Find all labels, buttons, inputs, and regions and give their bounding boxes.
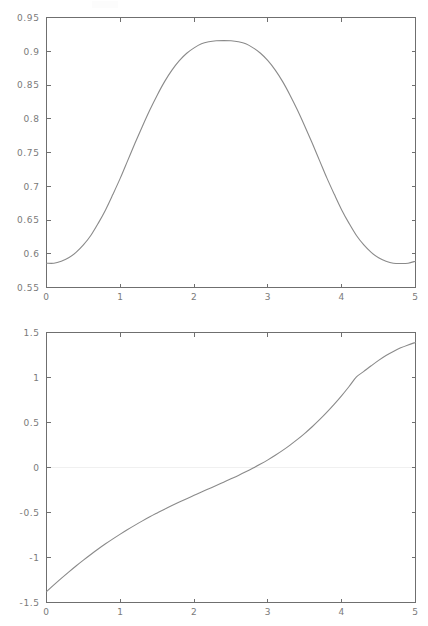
figure-container: 0123450.550.60.650.70.750.80.850.90.95 0…: [0, 0, 428, 626]
bottom-plot: 012345-1.5-1-0.500.511.5: [20, 328, 419, 617]
y-tick-label: 0.8: [23, 114, 39, 124]
y-tick-label: 1: [33, 373, 39, 383]
y-tick-label: 0.85: [17, 80, 39, 90]
y-tick-label: 0.95: [17, 13, 39, 23]
data-curve: [47, 41, 416, 264]
y-tick-label: 0.5: [23, 418, 39, 428]
x-tick-label: 4: [339, 607, 345, 617]
x-tick-label: 0: [43, 607, 49, 617]
x-tick-label: 3: [265, 292, 271, 302]
x-tick-label: 0: [43, 292, 49, 302]
y-tick-label: 0.75: [17, 148, 39, 158]
y-tick-label: 0.55: [17, 283, 39, 293]
x-tick-label: 2: [191, 292, 197, 302]
x-tick-label: 1: [117, 607, 123, 617]
plot-frame: [47, 18, 416, 288]
x-tick-label: 2: [191, 607, 197, 617]
x-tick-label: 5: [412, 607, 418, 617]
x-tick-label: 1: [117, 292, 123, 302]
y-tick-label: 0: [33, 463, 39, 473]
dual-line-chart: 0123450.550.60.650.70.750.80.850.90.95 0…: [0, 0, 428, 626]
y-tick-label: -1.5: [20, 598, 40, 608]
x-tick-label: 5: [412, 292, 418, 302]
top-plot: 0123450.550.60.650.70.750.80.850.90.95: [17, 13, 419, 302]
y-tick-label: 0.9: [23, 47, 39, 57]
y-tick-label: 1.5: [23, 328, 39, 338]
y-tick-label: -1: [29, 553, 39, 563]
y-tick-label: 0.7: [23, 182, 39, 192]
y-tick-label: 0.6: [23, 249, 39, 259]
y-tick-label: -0.5: [20, 508, 40, 518]
y-tick-label: 0.65: [17, 215, 39, 225]
title-artifact: [92, 1, 118, 8]
x-tick-label: 3: [265, 607, 271, 617]
x-tick-label: 4: [339, 292, 345, 302]
